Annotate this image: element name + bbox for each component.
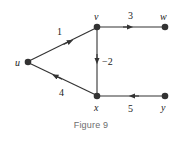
node-x[interactable]	[94, 93, 101, 100]
node-label-w: w	[160, 12, 167, 22]
node-u[interactable]	[25, 59, 32, 66]
node-v[interactable]	[94, 24, 101, 31]
node-w[interactable]	[162, 24, 169, 31]
figure-9-container: u v w x y 1 3 −2 4 5 Figure 9	[0, 0, 182, 142]
arrowhead-x-to-u	[55, 76, 62, 79]
edge-weight-v-x: −2	[102, 57, 113, 67]
node-label-x: x	[94, 103, 98, 113]
node-y[interactable]	[162, 93, 169, 100]
figure-caption: Figure 9	[0, 121, 182, 130]
edge-weight-v-w: 3	[128, 11, 133, 21]
edge-u-to-v	[29, 28, 96, 61]
node-label-y: y	[161, 103, 165, 113]
node-label-u: u	[15, 58, 20, 68]
edge-weight-y-x: 5	[128, 104, 133, 114]
node-label-v: v	[94, 12, 98, 22]
edge-weight-u-v: 1	[57, 27, 62, 37]
edge-weight-x-u: 4	[59, 88, 64, 98]
